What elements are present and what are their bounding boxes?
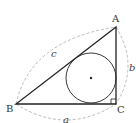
vertex-b-label: B	[6, 103, 13, 114]
side-b-label: b	[129, 62, 135, 73]
right-angle-marker	[111, 99, 116, 104]
incenter-point	[90, 77, 92, 79]
vertex-c-label: C	[117, 104, 125, 115]
vertex-a-label: A	[111, 13, 120, 24]
side-c-label: c	[51, 48, 57, 59]
side-b-arc	[116, 27, 128, 104]
triangle-abc	[16, 27, 116, 104]
side-a-label: a	[63, 114, 69, 123]
triangle-diagram: A B C c b a	[0, 0, 136, 123]
